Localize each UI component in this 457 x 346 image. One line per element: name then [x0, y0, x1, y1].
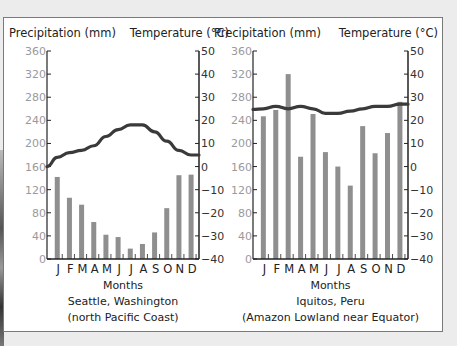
iquitos-month-label: A	[298, 262, 306, 276]
iquitos-precip-tick-label: 80	[238, 207, 252, 220]
iquitos-temp-tick-label: −40	[410, 253, 433, 266]
iquitos-temp-tick-label: −10	[410, 184, 433, 197]
iquitos-precip-bar	[273, 110, 278, 259]
seattle-precip-tick-label: 240	[25, 114, 46, 127]
iquitos-precip-tick-label: 0	[245, 253, 252, 266]
seattle-month-label: A	[91, 262, 99, 276]
iquitos-temp-tick-label: 0	[410, 161, 417, 174]
iquitos-precip-bar	[298, 157, 303, 259]
iquitos-location-subtitle: (Amazon Lowland near Equator)	[242, 311, 419, 324]
seattle-temp-tick-label: 20	[201, 114, 215, 127]
seattle-precip-tick-label: 0	[39, 253, 46, 266]
iquitos-precip-tick-label: 280	[231, 91, 252, 104]
iquitos-temp-tick-label: 10	[410, 137, 424, 150]
seattle-temp-tick-label: −30	[201, 230, 224, 243]
iquitos-precip-axis-title: Precipitation (mm)	[214, 26, 321, 40]
seattle-precip-bar	[55, 177, 60, 259]
iquitos-month-label: J	[324, 262, 328, 276]
iquitos-month-label: M	[284, 262, 294, 276]
seattle-precip-tick-label: 120	[25, 184, 46, 197]
seattle-precip-bar	[152, 232, 157, 259]
iquitos-precip-bar	[335, 167, 340, 259]
iquitos-precip-bar	[323, 152, 328, 259]
seattle-precip-bar	[140, 244, 145, 259]
seattle-month-label: M	[102, 262, 112, 276]
iquitos-month-label: J	[336, 262, 340, 276]
iquitos-precip-bar	[360, 126, 365, 259]
seattle-precip-bar	[164, 208, 169, 259]
iquitos-precip-bar	[261, 116, 266, 259]
seattle-month-label: O	[163, 262, 172, 276]
iquitos-precip-tick-label: 360	[231, 45, 252, 58]
iquitos-precip-tick-label: 320	[231, 68, 252, 81]
seattle-location-title: Seattle, Washington	[68, 295, 179, 308]
seattle-month-label: F	[67, 262, 74, 276]
iquitos-precip-bar	[397, 102, 402, 259]
seattle-month-label: J	[56, 262, 60, 276]
seattle-precip-tick-label: 40	[32, 230, 46, 243]
seattle-temp-tick-label: −40	[201, 253, 224, 266]
iquitos-month-label: J	[262, 262, 266, 276]
iquitos-temp-tick-label: 40	[410, 68, 424, 81]
iquitos-x-axis-title: Months	[310, 279, 350, 292]
seattle-precip-bar	[189, 175, 194, 259]
seattle-location-subtitle: (north Pacific Coast)	[67, 311, 178, 324]
iquitos-location-title: Iquitos, Peru	[296, 295, 365, 308]
seattle-temp-tick-label: −10	[201, 184, 224, 197]
seattle-month-label: J	[116, 262, 120, 276]
iquitos-precip-bar	[385, 133, 390, 259]
seattle-precip-bar	[79, 205, 84, 259]
seattle-precip-bar	[67, 198, 72, 259]
iquitos-temp-tick-label: −30	[410, 230, 433, 243]
climate-figure: Precipitation (mm)Temperature (°C)040801…	[3, 17, 443, 332]
iquitos-temp-tick-label: −20	[410, 207, 433, 220]
seattle-precip-bar	[91, 222, 96, 259]
iquitos-precip-tick-label: 240	[231, 114, 252, 127]
seattle-precip-tick-label: 320	[25, 68, 46, 81]
seattle-month-label: N	[176, 262, 185, 276]
seattle-month-label: J	[129, 262, 133, 276]
seattle-x-axis-title: Months	[103, 279, 143, 292]
iquitos-precip-tick-label: 40	[238, 230, 252, 243]
iquitos-month-label: F	[273, 262, 280, 276]
seattle-precip-tick-label: 280	[25, 91, 46, 104]
iquitos-month-label: D	[396, 262, 405, 276]
seattle-temp-tick-label: −20	[201, 207, 224, 220]
seattle-temp-tick-label: 30	[201, 91, 215, 104]
climate-charts-svg: Precipitation (mm)Temperature (°C)040801…	[4, 18, 444, 333]
iquitos-temp-tick-label: 20	[410, 114, 424, 127]
iquitos-month-label: N	[384, 262, 393, 276]
seattle-precip-bar	[176, 175, 181, 259]
iquitos-temp-tick-label: 30	[410, 91, 424, 104]
iquitos-precip-tick-label: 200	[231, 137, 252, 150]
iquitos-month-label: M	[309, 262, 319, 276]
seattle-temp-tick-label: 40	[201, 68, 215, 81]
seattle-precip-axis-title: Precipitation (mm)	[9, 26, 116, 40]
iquitos-temp-axis-title: Temperature (°C)	[338, 26, 438, 40]
seattle-temp-tick-label: 0	[201, 161, 208, 174]
seattle-precip-tick-label: 200	[25, 137, 46, 150]
seattle-temperature-line	[47, 125, 199, 167]
iquitos-month-label: A	[347, 262, 355, 276]
seattle-precip-bar	[103, 235, 108, 259]
seattle-month-label: M	[78, 262, 88, 276]
iquitos-month-label: O	[372, 262, 381, 276]
iquitos-precip-tick-label: 160	[231, 161, 252, 174]
seattle-precip-bar	[116, 237, 121, 259]
iquitos-precip-bar	[373, 153, 378, 259]
seattle-precip-tick-label: 160	[25, 161, 46, 174]
seattle-month-label: D	[188, 262, 197, 276]
seattle-precip-tick-label: 80	[32, 207, 46, 220]
iquitos-precip-bar	[311, 114, 316, 259]
iquitos-precip-tick-label: 120	[231, 184, 252, 197]
seattle-month-label: S	[152, 262, 159, 276]
seattle-temp-tick-label: 50	[201, 45, 215, 58]
seattle-month-label: A	[139, 262, 147, 276]
iquitos-month-label: S	[360, 262, 367, 276]
iquitos-precip-bar	[348, 186, 353, 259]
iquitos-precip-bar	[286, 74, 291, 259]
iquitos-temp-tick-label: 50	[410, 45, 424, 58]
seattle-precip-tick-label: 360	[25, 45, 46, 58]
seattle-precip-bar	[128, 249, 133, 259]
seattle-temp-tick-label: 10	[201, 137, 215, 150]
